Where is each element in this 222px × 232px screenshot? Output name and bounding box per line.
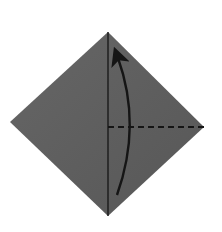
paper-diamond bbox=[10, 32, 204, 216]
origami-diagram: origami-fold-step bbox=[0, 0, 222, 232]
diagram-canvas bbox=[0, 0, 222, 232]
